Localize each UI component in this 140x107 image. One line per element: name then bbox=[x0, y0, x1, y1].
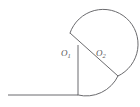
geometry-figure-canvas: O1 O2 bbox=[0, 0, 140, 107]
point-label-o2-letter: O bbox=[96, 48, 103, 58]
point-label-o1-letter: O bbox=[61, 48, 68, 58]
point-label-o1: O1 bbox=[61, 49, 71, 58]
point-label-o2-subscript: 2 bbox=[103, 52, 106, 59]
point-label-o1-subscript: 1 bbox=[68, 52, 71, 59]
point-label-o2: O2 bbox=[96, 49, 106, 58]
diagonal-radius-line bbox=[70, 33, 118, 76]
circle-lower-left-arc bbox=[78, 76, 118, 96]
